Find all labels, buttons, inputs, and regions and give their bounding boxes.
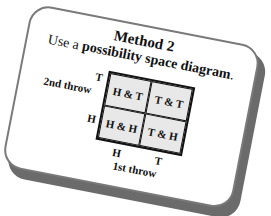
cell-t-h: T & H [139, 113, 187, 153]
x-axis-label: 1st throw [112, 159, 158, 179]
x-tick-t: T [154, 154, 163, 167]
method-card: Method 2 Use a possibility space diagram… [0, 3, 266, 215]
possibility-space-grid: H & T T & T H & H T & H [96, 71, 196, 157]
y-tick-h: H [86, 112, 97, 125]
y-axis-label: 2nd throw [43, 75, 93, 96]
y-tick-t: T [94, 70, 103, 83]
x-tick-h: H [111, 146, 122, 159]
cell-h-h: H & H [98, 105, 146, 145]
